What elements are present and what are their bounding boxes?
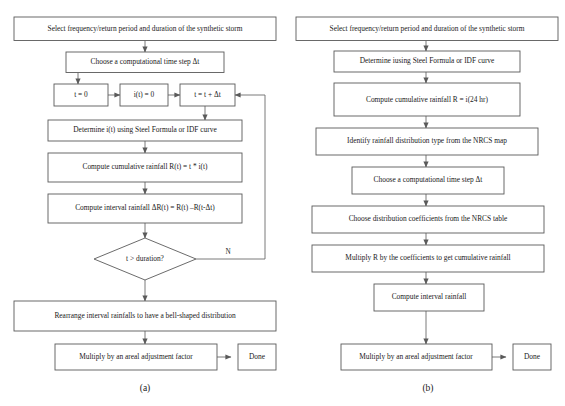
node-a-init-t-label: t = 0 bbox=[74, 90, 88, 99]
node-a-cumulative-label: Compute cumulative rainfall R(t) = t * i… bbox=[82, 162, 208, 171]
flowchart-figure: Select frequency/return period and durat… bbox=[0, 0, 565, 406]
panel-b-caption: (b) bbox=[422, 383, 433, 394]
node-a-increment-t-label: t = t + Δt bbox=[194, 90, 222, 99]
node-a-timestep-label: Choose a computational time step Δt bbox=[91, 57, 201, 66]
node-a-init-i-label: i(t) = 0 bbox=[134, 90, 155, 99]
node-b-identify-label: Identify rainfall distribution type from… bbox=[347, 136, 507, 145]
node-b-done-label: Done bbox=[524, 352, 541, 361]
panel-b: Select frequency/return period and durat… bbox=[296, 17, 558, 394]
node-b-coefficients-label: Choose distribution coefficients from th… bbox=[349, 214, 508, 223]
node-a-rearrange-label: Rearrange interval rainfalls to have a b… bbox=[54, 311, 236, 320]
edge-label-no: N bbox=[225, 248, 231, 256]
node-b-multiply-r-label: Multiply R by the coefficients to get cu… bbox=[345, 253, 510, 262]
node-b-cumulative-label: Compute cumulative rainfall R = i(24 hr) bbox=[366, 95, 489, 104]
flowchart-canvas: Select frequency/return period and durat… bbox=[0, 0, 565, 406]
node-b-timestep-label: Choose a computational time step Δt bbox=[374, 175, 484, 184]
node-b-determine-i-label: Determine iusing Steel Formula or IDF cu… bbox=[360, 56, 495, 65]
node-a-interval-label: Compute interval rainfall ΔR(t) = R(t) –… bbox=[75, 203, 215, 212]
node-a-start-label: Select frequency/return period and durat… bbox=[48, 24, 243, 33]
node-a-decision-label: t > duration? bbox=[126, 254, 164, 263]
node-b-start-label: Select frequency/return period and durat… bbox=[330, 24, 525, 33]
panel-a-caption: (a) bbox=[140, 383, 151, 394]
node-a-areal-label: Multiply by an areal adjustment factor bbox=[79, 352, 193, 361]
node-b-areal-label: Multiply by an areal adjustment factor bbox=[359, 352, 473, 361]
node-a-determine-i-label: Determine i(t) using Steel Formula or ID… bbox=[73, 125, 217, 134]
panel-a: Select frequency/return period and durat… bbox=[14, 17, 276, 394]
node-a-done-label: Done bbox=[249, 352, 266, 361]
node-b-interval-label: Compute interval rainfall bbox=[392, 292, 467, 301]
